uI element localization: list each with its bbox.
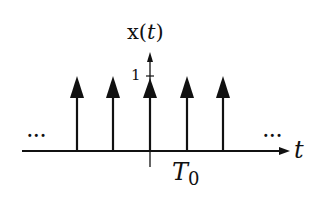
- period-subscript: 0: [188, 168, 199, 189]
- time-axis: [22, 147, 290, 155]
- impulse-5: [216, 76, 230, 151]
- impulse-train-diagram: x(t) 1 ... ... t T0: [0, 0, 317, 205]
- unit-tick-label: 1: [131, 68, 141, 83]
- impulse-1: [70, 76, 84, 151]
- period-symbol: T: [172, 158, 188, 186]
- amplitude-axis-arrow-icon: [147, 52, 153, 62]
- impulse-2: [106, 76, 120, 151]
- impulse-arrow-icon: [216, 76, 230, 98]
- signal-label: x(t): [127, 22, 164, 43]
- impulse-4: [180, 76, 194, 151]
- impulse-arrow-icon: [70, 76, 84, 98]
- impulse-arrow-icon: [180, 76, 194, 98]
- impulse-arrow-icon: [106, 76, 120, 98]
- impulse-arrow-icon: [143, 78, 157, 98]
- signal-close-paren: ): [156, 20, 164, 44]
- period-label: T0: [172, 160, 199, 184]
- time-axis-arrow-icon: [279, 147, 290, 155]
- ellipsis-right: ...: [263, 124, 283, 140]
- impulse-3: [143, 78, 157, 151]
- signal-variable: t: [147, 20, 155, 44]
- signal-name: x(: [127, 20, 147, 44]
- time-axis-label: t: [294, 138, 304, 162]
- ellipsis-left: ...: [27, 124, 47, 140]
